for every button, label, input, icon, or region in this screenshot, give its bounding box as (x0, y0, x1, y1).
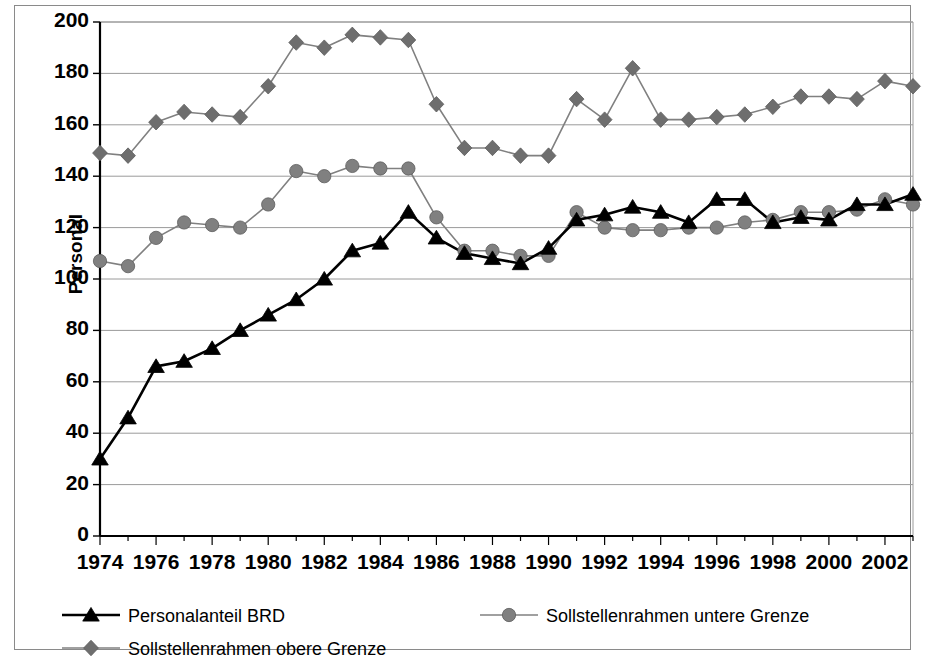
data-point (317, 40, 332, 56)
y-tick-label: 80 (27, 316, 89, 340)
data-point (374, 162, 387, 175)
data-point (149, 231, 162, 244)
data-point (905, 187, 922, 201)
y-tick-label: 40 (27, 419, 89, 443)
data-point (878, 73, 893, 89)
data-point (738, 216, 751, 229)
y-tick-label: 0 (27, 522, 89, 546)
data-point (373, 30, 388, 46)
data-point (401, 32, 416, 48)
y-tick-label: 180 (27, 59, 89, 83)
x-tick-label: 2002 (850, 550, 920, 574)
y-tick-label: 160 (27, 111, 89, 135)
data-point (177, 216, 190, 229)
data-point (260, 307, 277, 321)
y-tick-label: 120 (27, 214, 89, 238)
data-point (906, 78, 921, 94)
data-point (120, 410, 137, 424)
data-point (234, 221, 247, 234)
data-point (598, 221, 611, 234)
data-point (626, 224, 639, 237)
data-point (737, 107, 752, 123)
data-point (204, 341, 221, 355)
series-line-1 (100, 166, 913, 266)
series-line-2 (100, 35, 913, 156)
data-point (793, 89, 808, 105)
series-line-0 (100, 194, 913, 459)
series-lines (100, 35, 913, 459)
y-tick-label: 200 (27, 8, 89, 32)
data-point (93, 145, 108, 161)
legend-marker-1 (502, 608, 515, 621)
data-point (176, 354, 193, 368)
data-point (121, 260, 134, 273)
data-point (457, 140, 472, 156)
data-point (289, 35, 304, 51)
y-tick-label: 60 (27, 368, 89, 392)
data-point (262, 198, 275, 211)
gridlines (100, 22, 913, 536)
data-point (177, 104, 192, 120)
chart-figure: Personal 020406080100120140160180200 197… (0, 0, 927, 667)
data-point (205, 107, 220, 123)
data-point (850, 91, 865, 107)
data-point (318, 170, 331, 183)
data-point (569, 91, 584, 107)
data-point (345, 27, 360, 43)
data-point (821, 89, 836, 105)
data-point (402, 162, 415, 175)
data-point (429, 96, 444, 112)
data-point (765, 99, 780, 115)
data-point (92, 451, 109, 465)
data-point (710, 221, 723, 234)
legend-markers (62, 607, 538, 655)
y-tick-label: 20 (27, 471, 89, 495)
y-tick-label: 100 (27, 265, 89, 289)
data-point (290, 164, 303, 177)
data-point (709, 109, 724, 125)
data-point (346, 159, 359, 172)
data-point (513, 148, 528, 164)
legend-marker-2 (84, 640, 99, 656)
x-axis-ticks (100, 536, 913, 545)
data-point (654, 224, 667, 237)
data-point (400, 205, 417, 219)
data-point (205, 218, 218, 231)
data-point (232, 323, 249, 337)
y-tick-label: 140 (27, 162, 89, 186)
data-point (624, 199, 641, 213)
data-point (93, 254, 106, 267)
series-markers (92, 27, 922, 465)
data-point (430, 211, 443, 224)
data-point (541, 148, 556, 164)
data-point (485, 140, 500, 156)
